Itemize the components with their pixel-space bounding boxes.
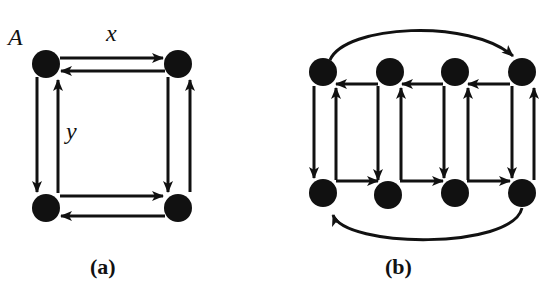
- node-b-top-4: [508, 58, 536, 86]
- caption-a: (a): [90, 254, 116, 280]
- node-b-top-2: [376, 58, 404, 86]
- edge-b-top-arc: [330, 30, 513, 60]
- caption-b: (b): [385, 254, 412, 280]
- node-b-bottom-1: [309, 179, 337, 207]
- panel-b-diagram: [314, 30, 534, 239]
- node-b-bottom-3: [441, 179, 469, 207]
- node-b-top-3: [441, 58, 469, 86]
- edge-b-bottom-arc: [333, 208, 522, 240]
- edge-label-y: y: [66, 118, 77, 145]
- node-label-a: A: [8, 24, 23, 51]
- node-a-bottom-right: [164, 194, 192, 222]
- edge-label-x: x: [106, 20, 117, 47]
- panel-b-nodes: [309, 58, 536, 209]
- node-b-bottom-4: [508, 179, 536, 207]
- node-a-top-right: [164, 50, 192, 78]
- node-a-bottom-left: [32, 194, 60, 222]
- panel-a-diagram: [37, 58, 190, 216]
- figure-canvas: [0, 0, 554, 304]
- node-b-top-1: [309, 58, 337, 86]
- node-a-top-left: [32, 50, 60, 78]
- node-b-bottom-2: [374, 181, 402, 209]
